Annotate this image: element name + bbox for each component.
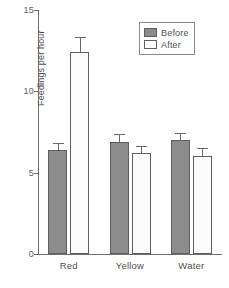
legend-swatch-before	[144, 28, 157, 37]
bar-water-before	[171, 140, 190, 254]
legend-item-after: After	[144, 39, 189, 50]
bar-chart-figure: 051015 Feedings per hour RedYellowWater …	[0, 0, 229, 288]
y-axis-tick-mark	[34, 254, 39, 255]
y-axis-tick-label: 0	[29, 249, 34, 259]
legend-item-before: Before	[144, 27, 189, 38]
error-bar-red-after	[80, 37, 81, 52]
x-axis-label-water: Water	[178, 260, 204, 271]
x-axis-line	[38, 254, 222, 255]
y-axis-tick-mark	[34, 173, 39, 174]
error-bar-cap-water-after	[197, 148, 208, 149]
legend-label-before: Before	[161, 28, 189, 38]
y-axis-tick-label: 15	[24, 5, 34, 15]
error-bar-cap-water-before	[175, 133, 186, 134]
bar-red-before	[48, 150, 67, 254]
x-axis-label-yellow: Yellow	[116, 260, 144, 271]
bar-water-after	[193, 156, 212, 254]
y-axis-title: Feedings per hour	[36, 30, 46, 106]
error-bar-red-before	[58, 143, 59, 150]
error-bar-cap-yellow-before	[114, 134, 125, 135]
error-bar-water-after	[202, 148, 203, 155]
legend-swatch-after	[144, 40, 157, 49]
y-axis-tick-label: 5	[29, 168, 34, 178]
y-axis-tick-label: 10	[24, 86, 34, 96]
error-bar-cap-red-before	[53, 143, 64, 144]
legend: BeforeAfter	[139, 22, 195, 55]
bar-yellow-after	[132, 153, 151, 254]
error-bar-yellow-before	[119, 134, 120, 142]
error-bar-water-before	[180, 133, 181, 140]
legend-label-after: After	[161, 40, 181, 50]
bar-red-after	[70, 52, 89, 254]
error-bar-cap-yellow-after	[136, 146, 147, 147]
bar-yellow-before	[110, 142, 129, 254]
x-axis-label-red: Red	[60, 260, 78, 271]
error-bar-yellow-after	[141, 146, 142, 153]
error-bar-cap-red-after	[75, 37, 86, 38]
y-axis-tick-mark	[34, 10, 39, 11]
